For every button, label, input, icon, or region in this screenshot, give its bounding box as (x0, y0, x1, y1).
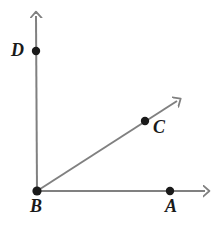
point-D (32, 47, 40, 55)
point-C (141, 117, 149, 125)
point-label-b: B (30, 197, 42, 215)
point-label-d: D (11, 41, 24, 59)
point-label-a: A (165, 197, 177, 215)
point-B (32, 186, 41, 195)
ray-BD (36, 16, 37, 191)
angle-diagram-figure: D C B A (0, 0, 223, 227)
point-label-c: C (153, 118, 165, 136)
geometry-canvas (0, 0, 223, 227)
ray-BC (37, 101, 177, 191)
point-A (166, 187, 174, 195)
